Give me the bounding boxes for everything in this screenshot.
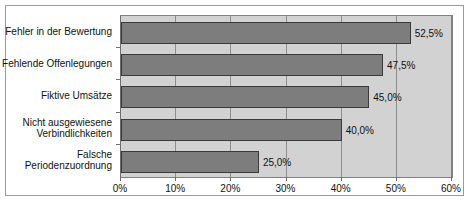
plot-area: 52,5%47,5%45,0%40,0%25,0% (120, 15, 453, 178)
bar[interactable] (121, 119, 342, 141)
bar-value-label: 45,0% (369, 92, 401, 103)
x-tick (230, 177, 231, 181)
category-label: Fehler in der Bewertung (2, 26, 112, 37)
category-label: Nicht ausgewiesene Verbindlichkeiten (2, 117, 112, 139)
category-label: Fiktive Umsätze (2, 90, 112, 101)
bar-value-label: 25,0% (259, 156, 291, 167)
x-tick-label: 0% (113, 183, 127, 194)
x-tick-label: 20% (220, 183, 240, 194)
bar[interactable] (121, 54, 383, 76)
x-tick (451, 177, 452, 181)
x-tick-label: 30% (275, 183, 295, 194)
bar-value-label: 40,0% (342, 124, 374, 135)
category-label: Falsche Periodenzuordnung (2, 149, 112, 171)
x-tick (120, 177, 121, 181)
x-tick-label: 10% (165, 183, 185, 194)
x-tick-label: 40% (331, 183, 351, 194)
bar-band: 52,5% (121, 16, 452, 48)
x-tick (341, 177, 342, 181)
x-tick-label: 60% (441, 183, 461, 194)
x-tick (286, 177, 287, 181)
chart-frame: Fehler in der BewertungFehlende Offenleg… (5, 5, 464, 196)
bar-band: 40,0% (121, 113, 452, 145)
bar-band: 25,0% (121, 145, 452, 177)
bar-value-label: 47,5% (383, 60, 415, 71)
bar-band: 45,0% (121, 80, 452, 112)
x-tick-label: 50% (386, 183, 406, 194)
category-axis: Fehler in der BewertungFehlende Offenleg… (6, 15, 118, 176)
bar[interactable] (121, 151, 259, 173)
bar-value-label: 52,5% (411, 28, 443, 39)
x-tick (396, 177, 397, 181)
x-axis: 0%10%20%30%40%50%60% (120, 177, 453, 199)
bar[interactable] (121, 22, 411, 44)
category-label: Fehlende Offenlegungen (2, 58, 112, 69)
bar[interactable] (121, 86, 369, 108)
x-tick (175, 177, 176, 181)
bar-band: 47,5% (121, 48, 452, 80)
